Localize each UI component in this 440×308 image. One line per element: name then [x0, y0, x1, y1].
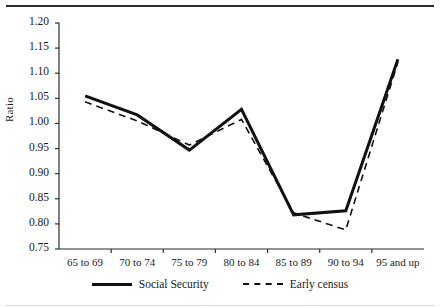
- y-tick-label: 0.90: [11, 166, 49, 178]
- y-tick-label: 0.85: [11, 191, 49, 203]
- legend-item-early-census[interactable]: Early census: [243, 278, 348, 290]
- data-series-layer: [85, 59, 398, 230]
- series-line-1: [85, 59, 398, 215]
- y-tick-label: 0.80: [11, 216, 49, 228]
- y-tick-label: 0.75: [11, 241, 49, 253]
- x-tick-label: 95 and up: [376, 256, 419, 268]
- legend-item-social-security[interactable]: Social Security: [92, 278, 209, 290]
- x-tick-label: 90 to 94: [328, 256, 364, 268]
- figure-container: Ratio 1.201.151.101.051.000.950.900.850.…: [0, 0, 440, 308]
- y-tick-label: 1.10: [11, 65, 49, 77]
- y-tick-label: 1.20: [11, 15, 49, 27]
- legend-label: Social Security: [139, 278, 209, 290]
- axis-lines: [59, 23, 424, 249]
- y-tick-label: 1.05: [11, 90, 49, 102]
- x-tick-label: 75 to 79: [171, 256, 207, 268]
- series-line-2: [85, 62, 398, 230]
- x-tick-label: 85 to 89: [276, 256, 312, 268]
- bottom-divider-rule: [6, 305, 434, 306]
- x-axis-ticks: [111, 249, 372, 253]
- chart-legend: Social Security Early census: [0, 278, 440, 290]
- y-tick-label: 1.15: [11, 40, 49, 52]
- x-tick-label: 80 to 84: [223, 256, 259, 268]
- legend-label: Early census: [290, 278, 348, 290]
- legend-dashed-line-icon: [243, 283, 283, 285]
- y-tick-label: 0.95: [11, 141, 49, 153]
- x-tick-label: 65 to 69: [67, 256, 103, 268]
- line-chart-plot: [0, 0, 440, 308]
- x-tick-label: 70 to 74: [119, 256, 155, 268]
- legend-solid-line-icon: [92, 283, 132, 286]
- y-tick-label: 1.00: [11, 115, 49, 127]
